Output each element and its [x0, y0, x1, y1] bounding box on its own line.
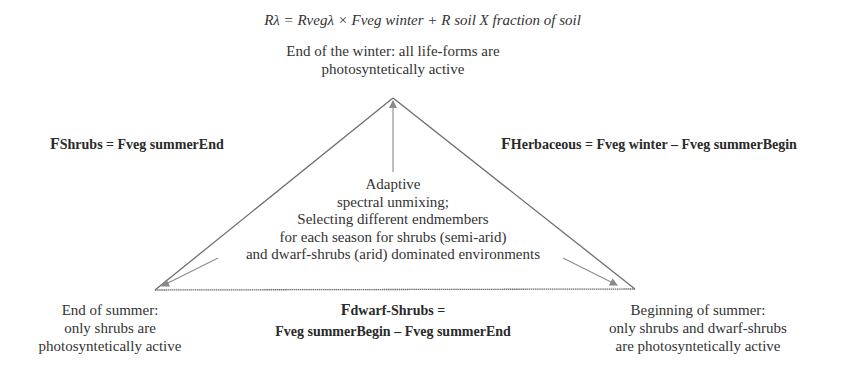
dwarf-shrubs-formula-prefix: F [341, 301, 351, 318]
herbaceous-formula-text: Herbaceous = Fveg winter – Fveg summerBe… [511, 137, 797, 152]
end-of-summer-line3: photosyntetically active [10, 337, 210, 355]
shrubs-formula-text: Shrubs = Fveg summerEnd [60, 137, 224, 152]
dwarf-shrubs-fraction-formula: Fdwarf-Shrubs = Fveg summerBegin – Fveg … [243, 301, 543, 341]
dwarf-shrubs-formula-line2: Fveg summerBegin – Fveg summerEnd [243, 323, 543, 341]
dwarf-shrubs-formula-line1: Fdwarf-Shrubs = [243, 301, 543, 320]
apex-label-line2: photosyntetically active [243, 60, 543, 78]
beginning-of-summer-label: Beginning of summer: only shrubs and dwa… [578, 301, 818, 355]
apex-label-line1: End of the winter: all life-forms are [243, 42, 543, 60]
end-of-summer-line2: only shrubs are [10, 319, 210, 337]
shrubs-fraction-formula: FShrubs = Fveg summerEnd [50, 135, 224, 154]
end-of-summer-label: End of summer: only shrubs are photosynt… [10, 301, 210, 355]
center-line3: Selecting different endmembers [193, 211, 593, 229]
shrubs-formula-prefix: F [50, 135, 60, 152]
apex-label: End of the winter: all life-forms are ph… [243, 42, 543, 78]
beginning-of-summer-line2: only shrubs and dwarf-shrubs [578, 319, 818, 337]
herbaceous-formula-prefix: F [501, 135, 511, 152]
beginning-of-summer-line1: Beginning of summer: [578, 301, 818, 319]
center-line4: for each season for shrubs (semi-arid) [193, 229, 593, 247]
beginning-of-summer-line3: are photosyntetically active [578, 337, 818, 355]
center-line2: spectral unmixing; [193, 194, 593, 212]
center-line5: and dwarf-shrubs (arid) dominated enviro… [193, 246, 593, 264]
dwarf-shrubs-formula-lhs: dwarf-Shrubs = [351, 303, 446, 318]
reflectance-formula: Rλ = Rvegλ × Fveg winter + R soil X frac… [0, 12, 845, 29]
center-line1: Adaptive [193, 176, 593, 194]
triangle-base [155, 289, 635, 290]
adaptive-unmixing-text: Adaptive spectral unmixing; Selecting di… [193, 176, 593, 264]
herbaceous-fraction-formula: FHerbaceous = Fveg winter – Fveg summerB… [501, 135, 797, 154]
end-of-summer-line1: End of summer: [10, 301, 210, 319]
